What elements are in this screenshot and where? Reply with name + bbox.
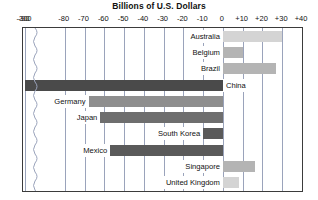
category-label-belgium: Belgium xyxy=(190,46,223,59)
x-tick-label: +10 xyxy=(235,13,248,24)
category-label-germany: Germany xyxy=(51,95,88,108)
category-label-japan: Japan xyxy=(74,111,101,124)
x-tick-label: -70 xyxy=(78,13,89,24)
category-labels-layer: AustraliaBelgiumBrazilChinaGermanyJapanS… xyxy=(23,28,302,191)
plot-area: AustraliaBelgiumBrazilChinaGermanyJapanS… xyxy=(22,27,303,192)
x-tick-label: -50 xyxy=(118,13,129,24)
x-tick-label: +20 xyxy=(255,13,268,24)
x-axis-tick-labels: -300-90-80-70-60-50-40-30-20-100+10+20+3… xyxy=(0,13,318,26)
category-label-brazil: Brazil xyxy=(198,62,223,75)
x-tick-label: -30 xyxy=(157,13,168,24)
x-tick-label: -60 xyxy=(98,13,109,24)
category-label-australia: Australia xyxy=(187,30,223,43)
category-label-singapore: Singapore xyxy=(182,160,223,173)
chart-title: Billions of U.S. Dollars xyxy=(0,0,318,12)
x-tick-label: -80 xyxy=(58,13,69,24)
x-tick-label: -20 xyxy=(177,13,188,24)
x-tick-label: -90 xyxy=(19,13,30,24)
x-tick-label: -40 xyxy=(137,13,148,24)
category-label-united-kingdom: United Kingdom xyxy=(163,176,223,189)
x-tick-label: 0 xyxy=(220,13,224,24)
category-label-south-korea: South Korea xyxy=(155,127,203,140)
x-tick-label: -10 xyxy=(197,13,208,24)
gridline-+40 xyxy=(302,28,303,191)
chart-container: Billions of U.S. Dollars -300-90-80-70-6… xyxy=(0,0,318,200)
category-label-china: China xyxy=(223,79,249,92)
x-tick-label: +40 xyxy=(295,13,308,24)
x-tick-label: +30 xyxy=(275,13,288,24)
category-label-mexico: Mexico xyxy=(80,144,110,157)
